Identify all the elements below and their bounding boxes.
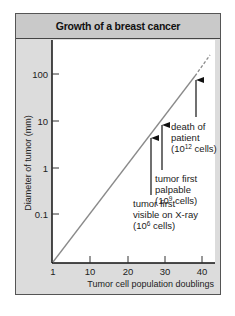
x-tick-label: 10 (85, 266, 96, 277)
x-tick-label: 20 (123, 266, 134, 277)
chart-plot: 100 10 1 0.1 1 10 20 30 40 Diameter of t… (0, 0, 235, 316)
x-axis-title: Tumor cell population doublings (87, 279, 214, 289)
svg-text:(1012 cells): (1012 cells) (171, 143, 217, 155)
y-tick-label: 1 (43, 163, 48, 174)
x-tick-label: 30 (160, 266, 171, 277)
svg-text:(106 cells): (106 cells) (133, 220, 175, 232)
y-tick-label: 10 (37, 116, 48, 127)
svg-text:death of: death of (171, 121, 206, 132)
svg-text:patient: patient (171, 132, 200, 143)
x-tick-label: 1 (50, 266, 55, 277)
svg-text:tumor first: tumor first (133, 198, 176, 209)
svg-text:visible on X-ray: visible on X-ray (133, 209, 198, 220)
y-tick-label: 100 (32, 69, 48, 80)
svg-text:tumor first: tumor first (155, 173, 198, 184)
y-axis-title: Diameter of tumor (mm) (23, 115, 33, 211)
y-tick-label: 0.1 (35, 209, 48, 220)
svg-text:palpable: palpable (155, 184, 191, 195)
x-tick-label: 40 (197, 266, 208, 277)
